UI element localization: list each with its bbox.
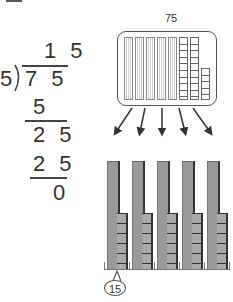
ones-stack <box>192 213 203 269</box>
split-arrows-icon <box>100 106 233 146</box>
division-bracket-icon <box>13 64 23 92</box>
group-bracket <box>129 262 155 270</box>
ones-stack <box>142 213 153 269</box>
ten-units-column <box>179 37 188 100</box>
ones-stack <box>167 213 178 269</box>
ten-bar <box>135 37 144 100</box>
ones-stack <box>117 213 128 269</box>
ones-stack <box>217 213 228 269</box>
long-division: 1 5 5 7 5 5 2 5 2 5 0 <box>0 0 100 302</box>
step2-line <box>30 177 67 179</box>
ten-bar <box>146 37 155 100</box>
step1-remainder: 2 5 <box>33 124 76 146</box>
ones-column <box>201 68 210 100</box>
ten-bar <box>124 37 133 100</box>
step2-remainder: 0 <box>53 182 69 204</box>
ten-units-column <box>190 37 199 100</box>
group-bracket <box>204 262 230 270</box>
total-label: 75 <box>156 12 186 24</box>
group-value-callout: 15 <box>104 280 126 296</box>
group-bracket <box>154 262 180 270</box>
group-bracket <box>104 262 130 270</box>
quotient: 1 5 <box>44 40 87 62</box>
base-ten-total-box <box>117 31 217 106</box>
group-bracket <box>179 262 205 270</box>
step1-subtract: 5 <box>33 96 49 118</box>
dividend: 7 5 <box>25 68 68 90</box>
step2-subtract: 2 5 <box>33 153 76 175</box>
ten-bar <box>157 37 166 100</box>
ten-bar <box>168 37 177 100</box>
